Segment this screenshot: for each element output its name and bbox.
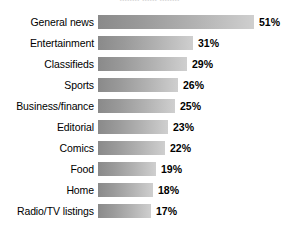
bar-value-label: 29% [187,58,213,70]
bar-fill [98,204,151,218]
category-label: Sports [0,79,98,91]
bar-row: Home 18% [0,179,299,200]
bar-row: Editorial 23% [0,116,299,137]
bar-fill [98,57,187,71]
bar-fill [98,141,165,155]
category-label: Classifieds [0,58,98,70]
bar-track: 31% [98,32,299,53]
bar-value-label: 51% [254,16,280,28]
bar-value-label: 25% [175,100,201,112]
bar-row: Business/finance 25% [0,95,299,116]
bar-row: Sports 26% [0,74,299,95]
bar-fill [98,36,193,50]
bar-value-label: 22% [165,142,191,154]
category-label: Home [0,184,98,196]
bar-row: Food 19% [0,158,299,179]
bar-track: 19% [98,158,299,179]
bar-track: 25% [98,95,299,116]
bar-value-label: 23% [168,121,194,133]
bar-fill [98,183,153,197]
bar-row: Radio/TV listings 17% [0,200,299,221]
bar-value-label: 19% [156,163,182,175]
bar-track: 26% [98,74,299,95]
bar-track: 23% [98,116,299,137]
bar-row: Comics 22% [0,137,299,158]
bar-fill [98,78,178,92]
bar-fill [98,162,156,176]
bar-fill [98,99,175,113]
bar-track: 29% [98,53,299,74]
bar-rows-container: General news 51% Entertainment 31% Class… [0,11,299,221]
bar-value-label: 18% [153,184,179,196]
clipped-chart-title: ........ ...... ........ [0,0,299,2]
bar-value-label: 26% [178,79,204,91]
bar-track: 51% [98,11,299,32]
category-label: Radio/TV listings [0,205,98,217]
bar-value-label: 31% [193,37,219,49]
bar-row: Classifieds 29% [0,53,299,74]
category-label: Comics [0,142,98,154]
category-label: Editorial [0,121,98,133]
category-label: Entertainment [0,37,98,49]
category-label: Food [0,163,98,175]
bar-value-label: 17% [151,205,177,217]
bar-fill [98,15,254,29]
category-label: General news [0,16,98,28]
bar-fill [98,120,168,134]
bar-track: 22% [98,137,299,158]
horizontal-bar-chart: ........ ...... ........ General news 51… [0,0,299,226]
bar-track: 17% [98,200,299,221]
bar-track: 18% [98,179,299,200]
bar-row: Entertainment 31% [0,32,299,53]
category-label: Business/finance [0,100,98,112]
bar-row: General news 51% [0,11,299,32]
